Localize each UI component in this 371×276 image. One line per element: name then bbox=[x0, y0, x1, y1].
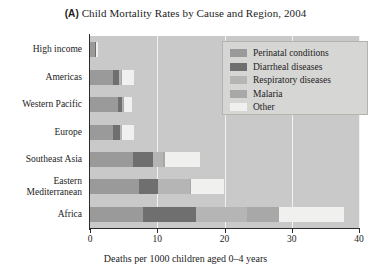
bar-segment-other bbox=[165, 152, 200, 167]
y-axis-label-eastern-mediterranean: Eastern Mediterranean bbox=[0, 176, 86, 197]
bar-segment-perinatal bbox=[90, 70, 113, 85]
x-tick-40 bbox=[359, 228, 360, 233]
x-tick-20 bbox=[225, 228, 226, 233]
legend-swatch-icon bbox=[230, 63, 247, 71]
legend-label: Other bbox=[253, 102, 275, 112]
legend-item-respiratory-diseases[interactable]: Respiratory diseases bbox=[230, 74, 331, 86]
legend-label: Diarrheal diseases bbox=[253, 62, 322, 72]
x-tick-10 bbox=[157, 228, 158, 233]
bar-segment-perinatal bbox=[90, 207, 143, 222]
bar-segment-diarrheal bbox=[113, 125, 120, 140]
bar-segment-respiratory bbox=[196, 207, 247, 222]
x-axis-title: Deaths per 1000 children aged 0–4 years bbox=[0, 253, 371, 264]
x-tick-label-40: 40 bbox=[344, 234, 371, 244]
legend-swatch-icon bbox=[230, 76, 247, 84]
bar-segment-diarrheal bbox=[139, 179, 158, 194]
bar-segment-respiratory bbox=[158, 179, 190, 194]
bar-africa[interactable] bbox=[90, 207, 344, 222]
x-tick-30 bbox=[292, 228, 293, 233]
bar-segment-other bbox=[191, 179, 225, 194]
x-tick-label-20: 20 bbox=[210, 234, 240, 244]
bar-segment-other bbox=[96, 42, 98, 57]
bar-southeast-asia[interactable] bbox=[90, 152, 200, 167]
chart-title: (A) Child Mortality Rates by Cause and R… bbox=[0, 7, 371, 19]
y-axis-label-western-pacific: Western Pacific bbox=[0, 99, 86, 110]
legend-item-other[interactable]: Other bbox=[230, 101, 275, 113]
bar-segment-other bbox=[122, 70, 135, 85]
bar-segment-other bbox=[124, 97, 132, 112]
bar-europe[interactable] bbox=[90, 125, 134, 140]
bar-segment-perinatal bbox=[90, 125, 113, 140]
legend-swatch-icon bbox=[230, 49, 247, 57]
bar-eastern-mediterranean[interactable] bbox=[90, 179, 224, 194]
x-tick-label-0: 0 bbox=[75, 234, 105, 244]
y-axis-label-southeast-asia: Southeast Asia bbox=[0, 154, 86, 165]
legend-item-malaria[interactable]: Malaria bbox=[230, 88, 283, 100]
legend-label: Malaria bbox=[253, 89, 283, 99]
bar-western-pacific[interactable] bbox=[90, 97, 132, 112]
gridline-10 bbox=[157, 36, 158, 228]
legend-item-perinatal-conditions[interactable]: Perinatal conditions bbox=[230, 47, 329, 59]
x-tick-label-10: 10 bbox=[142, 234, 172, 244]
legend-swatch-icon bbox=[230, 90, 247, 98]
bar-segment-respiratory bbox=[153, 152, 163, 167]
legend-swatch-icon bbox=[230, 103, 247, 111]
bar-segment-diarrheal bbox=[143, 207, 196, 222]
bar-segment-other bbox=[122, 125, 133, 140]
y-axis-labels: High incomeAmericasWestern PacificEurope… bbox=[0, 36, 86, 228]
bar-segment-diarrheal bbox=[133, 152, 153, 167]
bar-americas[interactable] bbox=[90, 70, 134, 85]
legend: Perinatal conditionsDiarrheal diseasesRe… bbox=[222, 41, 368, 115]
panel-letter: (A) bbox=[65, 8, 79, 19]
bar-high-income[interactable] bbox=[90, 42, 98, 57]
bar-segment-malaria bbox=[247, 207, 279, 222]
bar-segment-perinatal bbox=[90, 179, 139, 194]
y-axis-label-europe: Europe bbox=[0, 127, 86, 138]
legend-label: Respiratory diseases bbox=[253, 75, 331, 85]
legend-item-diarrheal-diseases[interactable]: Diarrheal diseases bbox=[230, 61, 322, 73]
x-tick-0 bbox=[90, 228, 91, 233]
x-tick-label-30: 30 bbox=[277, 234, 307, 244]
bar-segment-perinatal bbox=[90, 97, 118, 112]
legend-label: Perinatal conditions bbox=[253, 48, 329, 58]
y-axis-label-high-income: High income bbox=[0, 44, 86, 55]
y-axis-label-africa: Africa bbox=[0, 209, 86, 220]
figure: (A) Child Mortality Rates by Cause and R… bbox=[0, 0, 371, 276]
y-axis-label-americas: Americas bbox=[0, 72, 86, 83]
bar-segment-other bbox=[279, 207, 344, 222]
bar-segment-perinatal bbox=[90, 152, 133, 167]
chart-title-text: Child Mortality Rates by Cause and Regio… bbox=[82, 7, 307, 19]
